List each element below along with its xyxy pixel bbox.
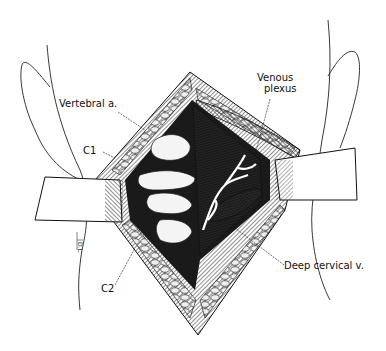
- label-c1: C1: [83, 145, 96, 156]
- label-venous-plexus-line1: Venous: [257, 72, 293, 83]
- incision: [95, 72, 300, 335]
- label-deep-cervical-vein: Deep cervical v.: [284, 260, 364, 271]
- label-vertebral-artery: Vertebral a.: [59, 98, 117, 109]
- label-venous-plexus-line2: plexus: [264, 83, 297, 94]
- surgical-illustration: Vertebral a. C1 C2 Venous plexus Deep ce…: [0, 0, 386, 351]
- label-c2: C2: [101, 283, 114, 294]
- illustration-canvas: [0, 0, 386, 351]
- artist-initials: D.L.: [77, 242, 84, 254]
